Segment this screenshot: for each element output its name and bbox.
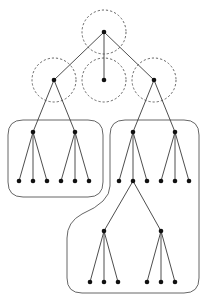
edge-R1b-S1 [104, 181, 133, 231]
node-S1a [88, 280, 93, 285]
edge-L-L2 [54, 80, 75, 132]
node-L [52, 78, 57, 83]
edge-S2-S2a [147, 231, 161, 282]
node-R2b [173, 179, 178, 184]
edge-R1-R1a [119, 132, 133, 181]
edge-root-L [54, 32, 104, 80]
edge-L2-L2a [61, 132, 75, 181]
edge-R1b-S2 [133, 181, 161, 231]
tree-diagram-canvas [0, 0, 206, 301]
node-R1 [131, 130, 136, 135]
node-R2a [159, 179, 164, 184]
node-S1c [116, 280, 121, 285]
edge-R2-R2a [161, 132, 175, 181]
edge-L-L1 [33, 80, 54, 132]
edge-R-R2 [154, 80, 175, 132]
edge-L1-L1c [33, 132, 47, 181]
node-R2c [187, 179, 192, 184]
node-L1c [45, 179, 50, 184]
tree-diagram [0, 0, 206, 301]
node-R1a [117, 179, 122, 184]
edge-R2-R2c [175, 132, 189, 181]
edge-R1-R1c [133, 132, 147, 181]
node-R1b [131, 179, 136, 184]
node-L2c [87, 179, 92, 184]
edge-S2-S2c [161, 231, 175, 282]
node-S2c [173, 280, 178, 285]
node-R1c [145, 179, 150, 184]
node-L2a [59, 179, 64, 184]
node-L2b [73, 179, 78, 184]
node-S2a [145, 280, 150, 285]
node-root [102, 30, 107, 35]
node-S2b [159, 280, 164, 285]
node-R [152, 78, 157, 83]
edge-root-R [104, 32, 154, 80]
node-S2 [159, 229, 164, 234]
edge-R-R1 [133, 80, 154, 132]
edge-S1-S1c [104, 231, 118, 282]
node-S1 [102, 229, 107, 234]
edge-S1-S1a [90, 231, 104, 282]
node-S1b [102, 280, 107, 285]
node-L1 [31, 130, 36, 135]
node-L2 [73, 130, 78, 135]
edge-L2-L2c [75, 132, 89, 181]
tree-edges [19, 32, 189, 282]
node-L1a [17, 179, 22, 184]
group-left-outline [8, 120, 103, 197]
node-M [102, 78, 107, 83]
edge-L1-L1a [19, 132, 33, 181]
node-L1b [31, 179, 36, 184]
node-R2 [173, 130, 178, 135]
